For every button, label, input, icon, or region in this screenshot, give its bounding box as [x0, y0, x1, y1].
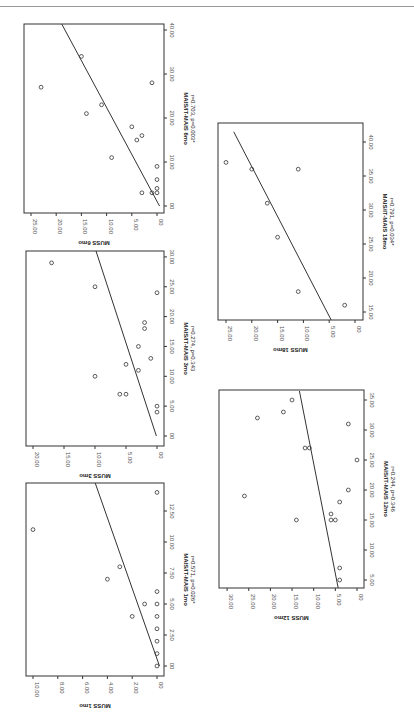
x-tick-label: 15.00 — [368, 304, 374, 320]
data-point — [85, 112, 89, 116]
plot-frame — [24, 24, 164, 213]
y-tick-label: 15.00 — [293, 594, 299, 610]
data-point — [290, 398, 294, 402]
y-tick-label: 10.00 — [34, 682, 40, 698]
data-point — [294, 518, 298, 522]
scatter-panel-p12: 5.0010.0015.0020.0025.0030.0035.00005.00… — [219, 390, 396, 621]
x-tick-label: 15.00 — [369, 512, 375, 528]
data-point — [50, 261, 54, 265]
data-point — [155, 410, 159, 414]
y-tick-label: 00 — [358, 594, 364, 601]
regression-line — [234, 132, 332, 320]
plot-frame — [218, 123, 363, 320]
y-tick-label: 5.00 — [133, 219, 139, 231]
data-point — [346, 488, 350, 492]
x-tick-label: 2.50 — [169, 629, 175, 641]
data-point — [155, 639, 159, 643]
x-tick-label: 5.00 — [169, 598, 175, 610]
x-tick-label: 30.00 — [368, 202, 374, 218]
x-axis-title: MAIS/IT-MAIS 18mo — [382, 193, 388, 249]
x-axis-title: MAIS/IT-MAIS 3mo — [183, 322, 189, 375]
y-tick-label: 00 — [356, 326, 362, 333]
y-tick-label: 10.00 — [96, 452, 102, 468]
plot-frame — [219, 390, 364, 588]
data-point — [100, 103, 104, 107]
regression-line — [95, 482, 159, 666]
x-tick-label: 10.00 — [169, 154, 175, 170]
regression-line — [299, 391, 338, 589]
x-tick-label: 35.00 — [369, 392, 375, 408]
plot-frame — [26, 483, 164, 676]
data-point — [155, 627, 159, 631]
x-tick-label: 7.50 — [169, 567, 175, 579]
y-tick-label: 15.00 — [82, 219, 88, 235]
x-tick-label: 12.50 — [169, 503, 175, 519]
y-tick-label: 8.00 — [59, 682, 65, 694]
data-point — [80, 55, 84, 59]
y-tick-label: 2.00 — [133, 682, 139, 694]
data-point — [143, 321, 147, 325]
data-point — [329, 512, 333, 516]
y-tick-label: 10.00 — [108, 219, 114, 235]
y-tick-label: 20.00 — [253, 326, 259, 342]
scatter-panel-p6: 0010.0020.0030.0040.00005.0010.0015.0020… — [24, 21, 196, 246]
y-tick-label: 15.00 — [279, 326, 285, 342]
correlation-stat: r=0.571, p=0.026* — [190, 555, 196, 604]
scatter-panel-p3: 005.0010.0015.0020.0025.0030.00005.0010.… — [26, 248, 196, 479]
y-axis-title: MUSS 3mo — [79, 473, 111, 479]
data-point — [303, 446, 307, 450]
data-point — [346, 422, 350, 426]
data-point — [243, 494, 247, 498]
correlation-stat: r=0.703, p=0.003* — [190, 94, 196, 143]
data-point — [31, 528, 35, 532]
y-tick-label: 20.00 — [271, 594, 277, 610]
y-tick-label: 5.00 — [127, 452, 133, 464]
y-tick-label: 25.00 — [250, 594, 256, 610]
x-tick-label: 35.00 — [368, 168, 374, 184]
data-point — [281, 410, 285, 414]
scatter-panel-p1: 002.505.007.5010.0012.50002.004.006.008.… — [26, 482, 196, 709]
data-point — [155, 404, 159, 408]
data-point — [137, 368, 141, 372]
y-axis-title: MUSS 12mo — [274, 615, 309, 621]
data-point — [333, 518, 337, 522]
data-point — [93, 374, 97, 378]
regression-line — [95, 248, 156, 436]
x-tick-label: 5.00 — [369, 574, 375, 586]
y-axis-title: MUSS 18mo — [273, 347, 308, 353]
data-point — [106, 577, 110, 581]
x-tick-label: 30.00 — [169, 249, 175, 265]
data-point — [118, 565, 122, 569]
data-point — [256, 416, 260, 420]
data-point — [276, 235, 280, 239]
data-point — [143, 602, 147, 606]
data-point — [355, 458, 359, 462]
data-point — [93, 285, 97, 289]
data-point — [155, 291, 159, 295]
data-point — [155, 615, 159, 619]
data-point — [155, 187, 159, 191]
data-point — [137, 345, 141, 349]
data-point — [338, 500, 342, 504]
y-tick-label: 6.00 — [84, 682, 90, 694]
scatter-figure: 0010.0020.0030.0040.00005.0010.0015.0020… — [0, 0, 414, 718]
y-tick-label: 10.00 — [315, 594, 321, 610]
data-point — [155, 652, 159, 656]
x-tick-label: 30.00 — [169, 66, 175, 82]
data-point — [118, 392, 122, 396]
x-tick-label: 25.00 — [369, 452, 375, 468]
y-tick-label: 00 — [158, 219, 164, 226]
y-tick-label: 5.00 — [336, 594, 342, 606]
y-tick-label: 30.00 — [228, 594, 234, 610]
x-tick-label: 20.00 — [169, 309, 175, 325]
data-point — [135, 138, 139, 142]
data-point — [155, 191, 159, 195]
x-tick-label: 10.00 — [169, 534, 175, 550]
y-tick-label: 5.00 — [330, 326, 336, 338]
x-axis-title: MAIS/IT-MAIS 12mo — [383, 461, 389, 517]
x-tick-label: 30.00 — [369, 422, 375, 438]
correlation-stat: r=0.274, p=0.343 — [190, 326, 196, 372]
data-point — [155, 664, 159, 668]
data-point — [329, 518, 333, 522]
y-axis-title: MUSS 1mo — [79, 703, 111, 709]
